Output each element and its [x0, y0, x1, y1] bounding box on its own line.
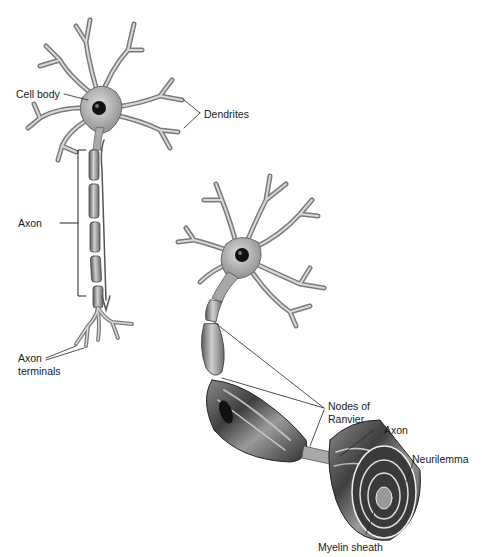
- signal-direction-arrow: [101, 140, 106, 300]
- label-axon-right: Axon: [384, 424, 408, 436]
- right-neuron: [178, 176, 420, 540]
- left-axon-terminals: [76, 308, 132, 346]
- neuron-diagram: [0, 0, 482, 557]
- label-nodes-of-ranvier-line2: Ranvier: [328, 413, 364, 425]
- right-nucleus: [235, 248, 249, 262]
- label-axon-terminals-line2: terminals: [18, 365, 61, 377]
- myelin-segment: [201, 324, 224, 375]
- axon-core: [376, 487, 392, 509]
- label-axon-terminals-line1: Axon: [18, 352, 42, 364]
- left-nucleus: [92, 101, 106, 115]
- axon-bracket: [78, 150, 86, 296]
- left-axon-segments: [89, 150, 103, 308]
- label-cell-body: Cell body: [16, 88, 60, 100]
- label-axon-left: Axon: [18, 217, 42, 229]
- left-neuron: [28, 20, 200, 360]
- label-nodes-of-ranvier-line1: Nodes of: [328, 400, 370, 412]
- label-neurilemma: Neurilemma: [412, 453, 469, 465]
- myelin-segment-large: [206, 380, 306, 462]
- label-myelin-sheath: Myelin sheath: [318, 541, 383, 553]
- label-dendrites: Dendrites: [204, 108, 249, 120]
